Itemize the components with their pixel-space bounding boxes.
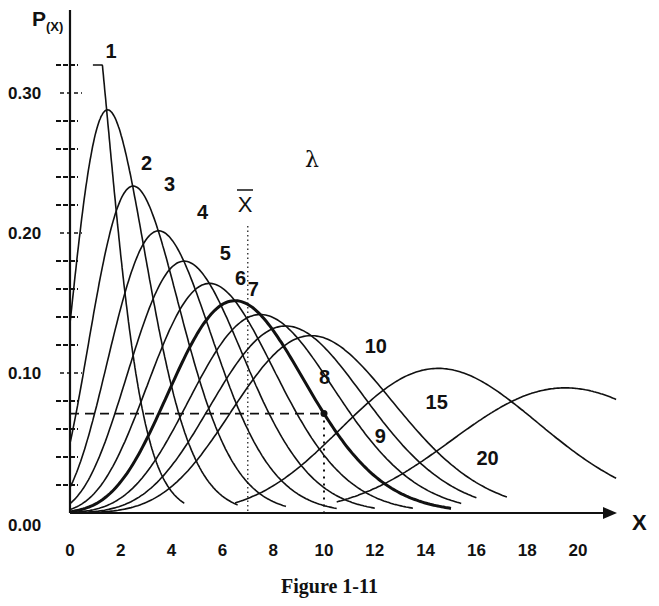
poisson-chart: 0.000.100.200.3002468101214161820P(X)XλX… [0, 0, 659, 606]
y-tick-label: 0.20 [8, 224, 41, 243]
x-tick-label: 6 [218, 541, 227, 560]
x-tick-label: 16 [467, 541, 486, 560]
lambda-label: λ [305, 147, 319, 172]
mean-label: X [238, 192, 253, 217]
x-tick-label: 0 [65, 541, 74, 560]
curve-label-4: 4 [197, 201, 209, 223]
figure-caption: Figure 1-11 [0, 575, 659, 598]
curve-label-6: 6 [235, 267, 246, 289]
x-tick-label: 2 [116, 541, 125, 560]
y-tick-label: 0.10 [8, 364, 41, 383]
x-axis-arrow-icon [603, 507, 617, 519]
curve-lambda-9 [70, 326, 476, 513]
x-axis-title: X [632, 510, 647, 535]
x-tick-label: 18 [518, 541, 537, 560]
curve-label-7: 7 [248, 278, 259, 300]
x-tick-label: 8 [268, 541, 277, 560]
curve-label-10: 10 [365, 335, 387, 357]
y-tick-label: 0.30 [8, 84, 41, 103]
axes [56, 10, 617, 519]
y-tick-label: 0.00 [8, 516, 41, 535]
curve-label-15: 15 [426, 391, 448, 413]
curve-label-8: 8 [319, 366, 330, 388]
curve-label-2: 2 [141, 152, 152, 174]
x-tick-label: 4 [167, 541, 177, 560]
x-tick-label: 20 [569, 541, 588, 560]
curve-label-20: 20 [476, 447, 498, 469]
y-axis-title: P(X) [32, 7, 63, 34]
x-tick-label: 12 [365, 541, 384, 560]
curve-lambda-7 [70, 301, 451, 512]
curve-label-9: 9 [375, 425, 386, 447]
curve-label-5: 5 [220, 242, 231, 264]
x-tick-label: 14 [416, 541, 435, 560]
x-tick-label: 10 [315, 541, 334, 560]
labels: 0.000.100.200.3002468101214161820P(X)XλX… [8, 7, 647, 560]
distribution-curves [70, 65, 616, 513]
reference-point [321, 410, 328, 417]
curve-label-3: 3 [164, 173, 175, 195]
curve-label-1: 1 [106, 40, 117, 62]
